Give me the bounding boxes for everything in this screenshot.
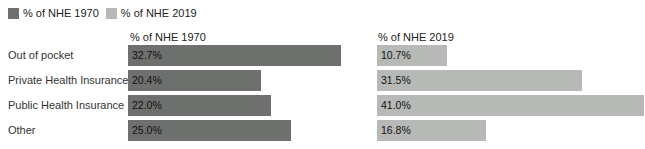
bar-value-label: 22.0% [128, 95, 271, 116]
bar-value-label: 20.4% [128, 70, 261, 91]
legend-label-1970: % of NHE 1970 [23, 7, 99, 19]
legend-item-1970: % of NHE 1970 [8, 7, 99, 19]
bar-value-label: 41.0% [377, 95, 644, 116]
bar-value-label: 31.5% [377, 70, 582, 91]
column-header-2019: % of NHE 2019 [378, 31, 454, 43]
legend-label-2019: % of NHE 2019 [121, 7, 197, 19]
table-row: Out of pocket 32.7% 10.7% [0, 45, 645, 66]
column-header-1970: % of NHE 1970 [130, 31, 206, 43]
bar-value-label: 16.8% [377, 120, 486, 141]
legend-item-2019: % of NHE 2019 [106, 7, 197, 19]
table-row: Private Health Insurance 20.4% 31.5% [0, 70, 645, 91]
bar-2019-private-health-insurance: 31.5% [377, 70, 582, 91]
category-label: Private Health Insurance [8, 70, 128, 91]
bar-2019-public-health-insurance: 41.0% [377, 95, 644, 116]
table-row: Public Health Insurance 22.0% 41.0% [0, 95, 645, 116]
bar-1970-out-of-pocket: 32.7% [128, 45, 341, 66]
category-label: Out of pocket [8, 45, 73, 66]
bar-value-label: 25.0% [128, 120, 291, 141]
legend-swatch-2019 [106, 8, 117, 19]
category-label: Other [8, 120, 36, 141]
bar-1970-private-health-insurance: 20.4% [128, 70, 261, 91]
legend-swatch-1970 [8, 8, 19, 19]
bar-1970-public-health-insurance: 22.0% [128, 95, 271, 116]
bar-value-label: 10.7% [377, 45, 447, 66]
bar-2019-out-of-pocket: 10.7% [377, 45, 447, 66]
bar-1970-other: 25.0% [128, 120, 291, 141]
legend: % of NHE 1970 % of NHE 2019 [8, 7, 204, 19]
grouped-bar-chart: % of NHE 1970 % of NHE 2019 % of NHE 197… [0, 0, 645, 149]
bar-value-label: 32.7% [128, 45, 341, 66]
category-label: Public Health Insurance [8, 95, 124, 116]
table-row: Other 25.0% 16.8% [0, 120, 645, 141]
bar-2019-other: 16.8% [377, 120, 486, 141]
